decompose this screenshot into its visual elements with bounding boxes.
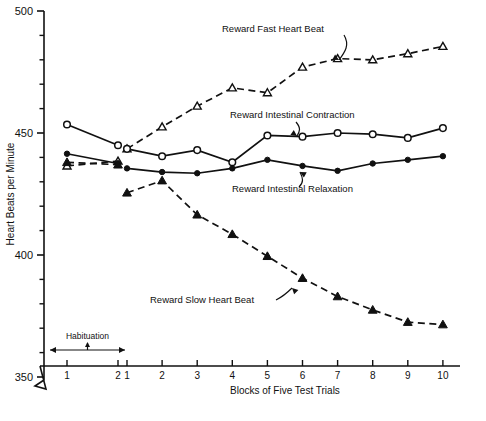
annotation-leader-line [296, 122, 300, 136]
annotation-leader-line [339, 35, 347, 60]
x-axis-test-label: 5 [265, 370, 271, 381]
data-point-marker [298, 274, 307, 282]
habituation-arrow-up-icon [85, 342, 90, 347]
x-axis-test-label: 4 [230, 370, 236, 381]
annotation-leader-line [276, 288, 292, 300]
annotation-arrow-icon [299, 169, 307, 177]
annotation-label: Reward Intestinal Contraction [230, 109, 355, 120]
x-axis-test-label: 2 [159, 370, 165, 381]
habituation-arrow-right-icon [119, 347, 125, 353]
data-point-marker [299, 63, 307, 70]
data-point-marker [159, 153, 166, 160]
test-line [127, 156, 443, 173]
data-point-marker [264, 132, 271, 139]
y-axis-tick-label: 400 [15, 249, 33, 261]
annotation-relaxation: Reward Intestinal Relaxation [232, 169, 353, 194]
y-axis-tick-label: 450 [15, 127, 33, 139]
test-line [127, 46, 443, 148]
data-point-marker [159, 169, 164, 174]
data-point-marker [124, 146, 131, 153]
data-point-marker [300, 163, 305, 168]
series-reward-intestinal-contraction [64, 121, 447, 165]
x-axis-test-label: 3 [194, 370, 200, 381]
data-point-marker [124, 166, 129, 171]
data-point-marker [440, 125, 447, 132]
x-axis-habituation-label: 1 [64, 370, 70, 381]
data-point-marker [370, 161, 375, 166]
x-axis-test-label: 6 [300, 370, 306, 381]
data-point-marker [440, 153, 445, 158]
x-axis: 1212345678910Blocks of Five Test Trials [40, 360, 460, 396]
data-point-marker [263, 252, 272, 260]
data-point-marker [369, 131, 376, 138]
data-point-marker [369, 56, 377, 63]
annotation-label: Reward Slow Heart Beat [150, 294, 254, 305]
x-axis-test-label: 9 [405, 370, 411, 381]
data-point-marker [194, 147, 201, 154]
data-point-marker [229, 159, 236, 166]
data-point-marker [335, 168, 340, 173]
x-axis-test-label: 7 [335, 370, 341, 381]
data-point-marker [64, 121, 71, 128]
figure-container: 350400450500Heart Beats per Minute121234… [0, 0, 486, 421]
data-point-marker [333, 292, 342, 300]
data-point-marker [228, 230, 237, 238]
data-point-marker [228, 84, 236, 91]
data-point-marker [405, 135, 412, 142]
data-point-marker [299, 133, 306, 140]
data-point-marker [115, 142, 122, 149]
data-point-marker [265, 157, 270, 162]
y-axis: 350400450500Heart Beats per Minute [5, 5, 46, 389]
data-point-marker [195, 171, 200, 176]
data-point-marker [404, 50, 412, 57]
test-line [127, 128, 443, 162]
annotation-label: Reward Intestinal Relaxation [232, 183, 353, 194]
annotation-arrow-icon [290, 286, 298, 294]
data-point-marker [405, 157, 410, 162]
data-point-marker [334, 130, 341, 137]
y-axis-title: Heart Beats per Minute [5, 142, 16, 245]
x-axis-habituation-label: 2 [115, 370, 121, 381]
annotation-fast: Reward Fast Heart Beat [222, 23, 347, 63]
habituation-line [67, 124, 118, 145]
habituation-annotation: Habituation [50, 331, 125, 353]
data-point-marker [368, 306, 377, 314]
y-axis-tick-label: 350 [15, 371, 33, 383]
data-point-marker [158, 123, 166, 130]
x-axis-title: Blocks of Five Test Trials [230, 385, 340, 396]
habituation-arrow-left-icon [50, 347, 56, 353]
data-point-marker [439, 320, 448, 328]
series-reward-fast-heart-beat [63, 42, 447, 169]
heart-rate-line-chart: 350400450500Heart Beats per Minute121234… [0, 0, 486, 421]
y-axis-tick-label: 500 [15, 5, 33, 17]
x-axis-test-label: 1 [124, 370, 130, 381]
data-point-marker [158, 176, 167, 184]
x-axis-test-label: 8 [370, 370, 376, 381]
data-point-marker [193, 102, 201, 109]
habituation-label: Habituation [66, 331, 109, 341]
habituation-line [67, 154, 118, 164]
data-point-marker [230, 166, 235, 171]
data-point-marker [64, 151, 69, 156]
x-axis-test-label: 10 [437, 370, 449, 381]
annotation-slow: Reward Slow Heart Beat [150, 286, 298, 305]
annotation-label: Reward Fast Heart Beat [222, 23, 324, 34]
data-point-marker [439, 42, 447, 49]
